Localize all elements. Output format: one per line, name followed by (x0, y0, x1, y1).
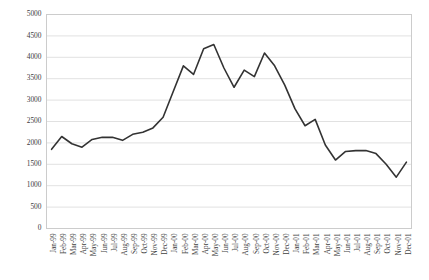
y-axis-tick-label: 1500 (27, 159, 42, 168)
x-axis-tick-label: Nov-00 (273, 233, 281, 255)
x-axis-tick-labels: Jan-99Feb-99Mar-99Apr-99May-99Jun-99Jul-… (50, 233, 413, 256)
y-axis-tick-label: 5000 (27, 9, 42, 18)
x-axis-tick-label: Jun-01 (344, 233, 352, 253)
x-axis-tick-label: Apr-01 (324, 233, 332, 254)
line-chart: 0500100015002000250030003500400045005000… (0, 0, 429, 280)
x-axis-tick-label: May-00 (212, 233, 220, 256)
x-axis-tick-label: Oct-01 (384, 233, 392, 253)
x-axis-tick-label: Jun-99 (101, 233, 109, 253)
y-axis-tick-label: 4500 (27, 31, 42, 40)
x-axis-tick-label: Apr-99 (80, 233, 88, 254)
x-axis-tick-label: Sep-99 (131, 233, 139, 254)
chart-canvas: 0500100015002000250030003500400045005000… (0, 0, 429, 280)
y-axis-tick-label: 500 (30, 202, 41, 211)
x-axis-tick-label: Oct-99 (141, 233, 149, 253)
x-axis-tick-label: Jul-01 (354, 233, 362, 251)
x-axis-tick-label: Aug-01 (364, 233, 372, 255)
y-axis-tick-label: 1000 (27, 180, 42, 189)
x-axis-tick-label: Mar-01 (313, 233, 321, 255)
x-axis-tick-label: Mar-99 (70, 233, 78, 255)
x-axis-tick-label: Dec-01 (405, 233, 413, 255)
x-axis-tick-label: Apr-00 (202, 233, 210, 254)
x-axis-tick-label: Mar-00 (192, 233, 200, 255)
x-axis-tick-label: May-99 (90, 233, 98, 256)
y-axis-tick-labels: 0500100015002000250030003500400045005000 (27, 9, 42, 232)
x-axis-tick-label: Aug-99 (121, 233, 129, 255)
x-axis-tick-label: Feb-00 (182, 233, 190, 254)
x-axis-tick-label: Nov-99 (151, 233, 159, 255)
y-axis-tick-label: 2500 (27, 116, 42, 125)
x-axis-tick-label: May-01 (334, 233, 342, 256)
x-axis-tick-label: Sep-00 (253, 233, 261, 254)
y-axis-tick-label: 3000 (27, 95, 42, 104)
x-axis-tick-label: Jul-00 (232, 233, 240, 251)
x-axis-tick-label: Nov-01 (395, 233, 403, 255)
y-axis-tick-label: 2000 (27, 138, 42, 147)
x-axis-tick-label: Dec-99 (161, 233, 169, 255)
x-axis-tick-label: Dec-00 (283, 233, 291, 255)
x-axis-tick-label: Jun-00 (222, 233, 230, 253)
x-axis-tick-label: Aug-00 (242, 233, 250, 255)
x-axis-tick-label: Jul-99 (111, 233, 119, 251)
x-axis-tick-label: Oct-00 (263, 233, 271, 253)
x-axis-tick-label: Jan-00 (171, 233, 179, 253)
x-axis-tick-label: Feb-99 (60, 233, 68, 254)
x-axis-tick-label: Jan-01 (293, 233, 301, 253)
x-axis-tick-label: Sep-01 (374, 233, 382, 254)
y-axis-tick-label: 3500 (27, 73, 42, 82)
x-axis-tick-label: Jan-99 (50, 233, 58, 253)
x-axis-tick-label: Feb-01 (303, 233, 311, 254)
y-axis-tick-label: 0 (38, 223, 42, 232)
y-axis-tick-label: 4000 (27, 52, 42, 61)
